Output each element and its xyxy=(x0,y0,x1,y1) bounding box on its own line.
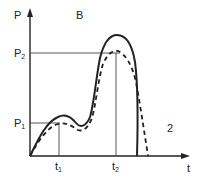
pressure-time-diagram: P B P2 P1 t1 t2 2 t xyxy=(0,0,197,178)
y-axis-arrow-icon xyxy=(27,8,33,17)
x-axis-arrow-icon xyxy=(181,153,190,159)
p1-label: P1 xyxy=(14,117,25,130)
guide-lines xyxy=(30,53,120,156)
axes xyxy=(27,8,190,159)
p2-label: P2 xyxy=(14,47,25,60)
t1-label: t1 xyxy=(55,160,62,173)
dashed-curve xyxy=(30,51,148,156)
region-label-b: B xyxy=(76,9,83,21)
y-axis-label: P xyxy=(14,9,21,21)
x-axis-label: t xyxy=(187,162,190,174)
labels: P B P2 P1 t1 t2 2 t xyxy=(14,9,190,174)
region-label-2: 2 xyxy=(167,122,173,134)
t2-label: t2 xyxy=(112,160,119,173)
